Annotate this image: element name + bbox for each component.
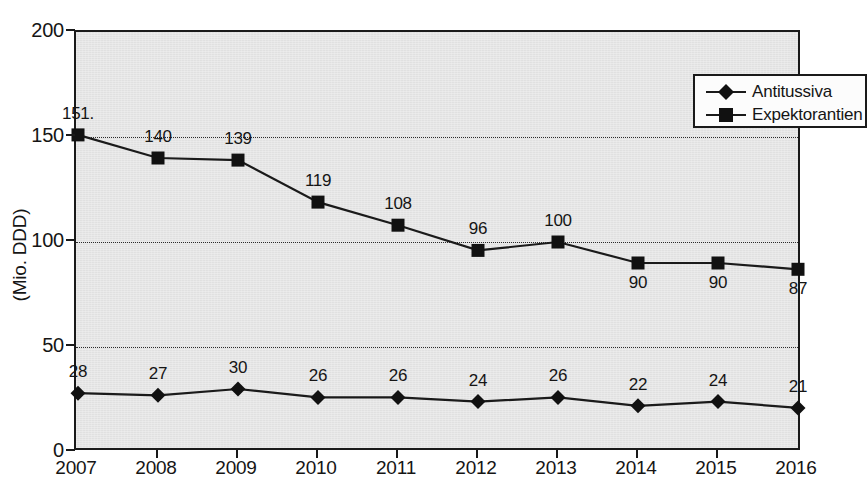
data-point-label: 24 [469, 372, 487, 390]
x-tick-label: 2016 [775, 458, 816, 478]
data-point-diamond[interactable] [391, 390, 406, 405]
data-point-square[interactable] [392, 219, 405, 232]
legend-entry-expektorantien[interactable]: Expektorantien [695, 103, 865, 126]
data-point-label: 87 [789, 280, 807, 298]
data-point-label: 30 [229, 359, 247, 377]
series-line [78, 389, 798, 408]
data-point-label: 26 [309, 367, 327, 385]
x-tick-mark [396, 450, 398, 458]
diamond-marker-icon [704, 82, 748, 102]
series-line [78, 135, 798, 269]
x-tick-mark [716, 450, 718, 458]
x-tick-label: 2012 [455, 458, 496, 478]
data-point-label: 151. [62, 105, 94, 123]
data-point-diamond[interactable] [791, 400, 806, 415]
data-point-label: 22 [629, 376, 647, 394]
y-tick-label: 100 [31, 230, 64, 250]
y-axis-ticks: 050100150200 [0, 0, 64, 494]
data-point-label: 90 [709, 274, 727, 292]
data-point-label: 21 [789, 378, 807, 396]
x-tick-label: 2010 [295, 458, 336, 478]
data-point-square[interactable] [152, 152, 165, 165]
x-tick-mark [316, 450, 318, 458]
data-point-label: 90 [629, 274, 647, 292]
data-point-label: 139 [224, 130, 251, 148]
data-point-diamond[interactable] [231, 382, 246, 397]
data-point-label: 140 [144, 128, 171, 146]
data-point-diamond[interactable] [311, 390, 326, 405]
x-tick-mark [476, 450, 478, 458]
x-tick-label: 2007 [55, 458, 96, 478]
data-point-label: 108 [384, 195, 411, 213]
data-point-square[interactable] [712, 257, 725, 270]
data-point-label: 100 [544, 212, 571, 230]
data-point-square[interactable] [552, 236, 565, 249]
data-point-label: 28 [69, 363, 87, 381]
plot-area: 28273026262426222421151.1401391191089610… [74, 30, 800, 450]
data-point-diamond[interactable] [71, 386, 86, 401]
x-tick-label: 2014 [615, 458, 656, 478]
data-point-label: 96 [469, 220, 487, 238]
data-point-diamond[interactable] [551, 390, 566, 405]
data-point-diamond[interactable] [631, 398, 646, 413]
data-point-label: 26 [389, 367, 407, 385]
x-tick-label: 2008 [135, 458, 176, 478]
y-tick-mark [66, 344, 75, 346]
legend-label-antitussiva: Antitussiva [748, 83, 832, 101]
x-tick-mark [556, 450, 558, 458]
data-point-square[interactable] [232, 154, 245, 167]
y-tick-label: 50 [42, 335, 64, 355]
data-point-square[interactable] [472, 244, 485, 257]
data-point-label: 27 [149, 365, 167, 383]
y-tick-mark [66, 239, 75, 241]
x-tick-mark [636, 450, 638, 458]
y-tick-label: 200 [31, 20, 64, 40]
data-point-diamond[interactable] [471, 394, 486, 409]
data-point-square[interactable] [312, 196, 325, 209]
y-tick-mark [66, 134, 75, 136]
y-tick-label: 150 [31, 125, 64, 145]
y-tick-mark [66, 29, 75, 31]
data-point-square[interactable] [792, 263, 805, 276]
square-marker-icon [704, 105, 748, 125]
data-point-square[interactable] [632, 257, 645, 270]
x-tick-label: 2009 [215, 458, 256, 478]
x-tick-label: 2013 [535, 458, 576, 478]
legend-entry-antitussiva[interactable]: Antitussiva [695, 80, 865, 103]
data-point-label: 26 [549, 367, 567, 385]
data-point-diamond[interactable] [151, 388, 166, 403]
data-point-label: 119 [305, 172, 331, 190]
x-tick-label: 2011 [376, 458, 416, 478]
x-tick-mark [236, 450, 238, 458]
x-tick-mark [156, 450, 158, 458]
legend-label-expektorantien: Expektorantien [748, 106, 863, 124]
data-point-label: 24 [709, 372, 727, 390]
x-tick-label: 2015 [695, 458, 736, 478]
data-point-diamond[interactable] [711, 394, 726, 409]
legend: Antitussiva Expektorantien [693, 74, 867, 128]
y-tick-mark [66, 449, 75, 451]
